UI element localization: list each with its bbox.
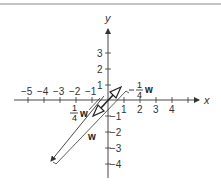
y-axis: 3 2 1 −1 −2 −3 −4 y	[97, 12, 122, 178]
y-tick-label: 1	[97, 80, 103, 91]
y-axis-label: y	[104, 12, 112, 24]
x-axis-label: x	[203, 94, 210, 106]
x-tick-label: 4	[169, 104, 175, 115]
fraction-numerator: 1	[72, 103, 77, 113]
label-quarter-w: 1 4 w	[70, 103, 88, 123]
x-tick-label: 1	[121, 104, 127, 115]
label-neg-quarter-w: 1 4 w	[129, 80, 153, 100]
y-tick-label: −4	[110, 159, 122, 170]
x-tick-label: −2	[69, 86, 81, 97]
x-tick-label: −4	[37, 86, 49, 97]
x-tick-label: −1	[85, 86, 97, 97]
y-tick-label: −2	[110, 127, 122, 138]
fraction-numerator: 1	[137, 80, 142, 90]
fraction-denominator: 4	[137, 90, 142, 100]
y-tick-label: −1	[110, 111, 122, 122]
x-tick-label: 3	[153, 104, 159, 115]
y-tick-label: −3	[110, 143, 122, 154]
y-tick-label: 3	[97, 48, 103, 59]
x-tick-label: 2	[137, 104, 143, 115]
label-w: w	[87, 131, 96, 142]
x-tick-label: −3	[53, 86, 65, 97]
y-tick-label: 2	[97, 64, 103, 75]
vector-symbol: w	[144, 84, 153, 95]
x-tick-label: −5	[21, 86, 33, 97]
fraction-denominator: 4	[72, 113, 77, 123]
vector-diagram: −5 −4 −3 −2 −1 1 2 3 4 x 3 2 1 −1 −2 −3 …	[0, 0, 221, 188]
vector-symbol: w	[79, 108, 88, 119]
